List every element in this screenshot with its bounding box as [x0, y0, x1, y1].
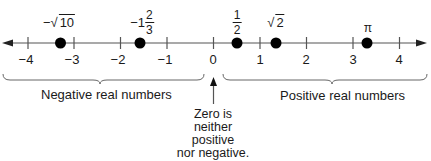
- point-pi: [362, 38, 373, 49]
- tick-label-2: 2: [302, 53, 309, 66]
- left-arrow-icon: [2, 40, 13, 47]
- tick-label-1: 1: [256, 53, 263, 66]
- tick-label-neg4: −4: [19, 53, 34, 66]
- tick-label-neg3: −3: [65, 53, 80, 66]
- sqrt-icon: √10: [50, 16, 75, 29]
- positive-brace: [223, 74, 427, 84]
- tick-label-neg1: −1: [158, 53, 173, 66]
- zero-pointer-arrow-icon: [210, 77, 217, 86]
- point-sqrt2: [271, 38, 282, 49]
- sqrt-icon: √2: [267, 16, 284, 29]
- tick-label-0: 0: [209, 53, 216, 66]
- positive-region-caption: Positive real numbers: [280, 89, 405, 102]
- tick-label-4: 4: [395, 53, 402, 66]
- tick-label-neg2: −2: [111, 53, 126, 66]
- zero-note-line: nor negative.: [177, 147, 249, 160]
- right-arrow-icon: [416, 40, 427, 47]
- zero-note: Zero is neither positive nor negative.: [177, 108, 249, 160]
- label-neg-1-2-3: −123: [130, 9, 154, 36]
- point-neg-1-2-3: [135, 38, 146, 49]
- point-neg-sqrt10: [55, 38, 66, 49]
- tick-label-3: 3: [349, 53, 356, 66]
- label-pi: π: [364, 22, 372, 34]
- negative-region-caption: Negative real numbers: [41, 88, 172, 101]
- label-one-half: 12: [233, 9, 242, 36]
- negative-brace: [3, 74, 204, 84]
- label-sqrt2: √2: [267, 16, 284, 29]
- point-one-half: [232, 38, 243, 49]
- label-neg-sqrt10: −√10: [43, 16, 75, 29]
